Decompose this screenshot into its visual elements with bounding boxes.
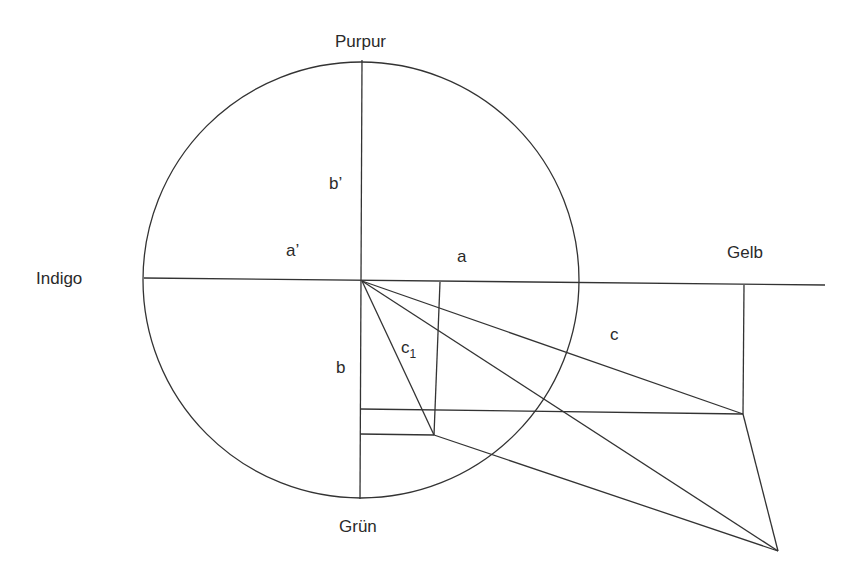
vertical-axis <box>360 60 362 499</box>
line-c-to-apex <box>743 414 778 551</box>
line-c1-to-apex <box>434 435 778 551</box>
line-c <box>362 281 743 414</box>
label-b-prime: b’ <box>329 174 342 193</box>
label-gelb: Gelb <box>727 243 763 262</box>
label-indigo: Indigo <box>36 269 82 288</box>
color-circle-diagram: Purpur Indigo Gelb Grün a’ b’ a b c c1 <box>0 0 856 577</box>
rect-a-vertical <box>434 282 440 435</box>
rect-b-horizontal <box>360 434 434 435</box>
label-c1: c1 <box>401 338 417 361</box>
label-gruen: Grün <box>339 517 377 536</box>
label-purpur: Purpur <box>335 32 386 51</box>
label-b: b <box>336 358 345 377</box>
horizontal-axis <box>144 278 825 285</box>
rect-mid-horizontal <box>360 409 743 414</box>
label-a-prime: a’ <box>286 241 299 260</box>
rect-gelb-vertical <box>743 285 744 414</box>
label-c: c <box>610 325 619 344</box>
label-a: a <box>457 247 467 266</box>
